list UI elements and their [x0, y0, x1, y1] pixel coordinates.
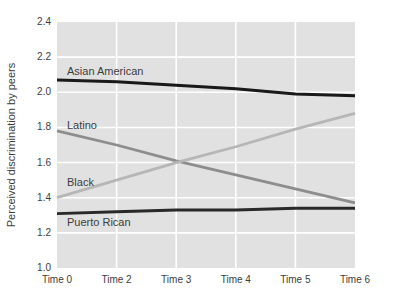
x-tick-label: Time 4 [221, 274, 252, 285]
y-tick-label: 1.2 [37, 227, 51, 238]
y-tick-label: 1.6 [37, 157, 51, 168]
y-tick-label: 1.4 [37, 192, 51, 203]
y-tick-label: 2.2 [37, 51, 51, 62]
y-tick-label: 1.8 [37, 121, 51, 132]
plot-panel [57, 22, 355, 268]
x-tick-label: Time 6 [340, 274, 371, 285]
series-label-puerto-rican: Puerto Rican [67, 216, 131, 228]
plot-area [57, 22, 355, 268]
x-tick-label: Time 0 [42, 274, 73, 285]
y-tick-label: 1.0 [37, 262, 51, 273]
figure: Asian AmericanLatinoBlackPuerto Rican 1.… [0, 0, 393, 304]
x-tick-label: Time 5 [280, 274, 311, 285]
series-label-black: Black [67, 176, 94, 188]
series-label-asian-american: Asian American [67, 65, 143, 77]
y-axis-title: Perceived discrimination by peers [5, 62, 17, 227]
series-label-latino: Latino [67, 119, 97, 131]
y-tick-label: 2.0 [37, 86, 51, 97]
line-chart: Asian AmericanLatinoBlackPuerto Rican 1.… [0, 0, 393, 304]
x-tick-label: Time 2 [101, 274, 132, 285]
x-tick-label: Time 3 [161, 274, 192, 285]
y-tick-label: 2.4 [37, 16, 51, 27]
